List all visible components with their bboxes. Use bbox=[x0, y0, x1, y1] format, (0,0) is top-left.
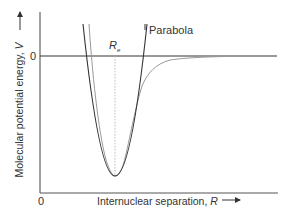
x-axis-title: Internuclear separation, R bbox=[97, 196, 218, 207]
re-main: R bbox=[109, 39, 117, 51]
y-axis-var: V bbox=[13, 42, 25, 49]
y-axis-text: Molecular potential energy, bbox=[13, 49, 25, 177]
y-axis-title: Molecular potential energy, V bbox=[13, 42, 25, 177]
re-sub: e bbox=[117, 47, 120, 53]
x-axis-var: R bbox=[210, 195, 218, 207]
x-zero-label: 0 bbox=[38, 196, 44, 207]
x-axis-text: Internuclear separation, bbox=[97, 195, 210, 207]
re-label: Re bbox=[109, 40, 120, 53]
y-zero-label: 0 bbox=[30, 51, 36, 62]
parabola-label: Parabola bbox=[149, 25, 193, 36]
potential-energy-chart bbox=[0, 0, 290, 215]
